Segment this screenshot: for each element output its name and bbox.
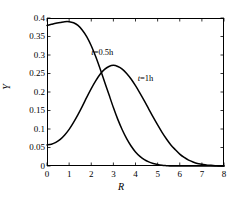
y-tick-label-text: 0.4 (34, 14, 45, 23)
y-tick-label: 0.25 (0, 69, 45, 78)
y-axis-label: Y (2, 84, 12, 90)
x-tick-label: 5 (148, 170, 168, 179)
y-tick-label-text: 0.05 (29, 143, 45, 152)
annotation-value: =0.5h (94, 47, 114, 57)
x-tick-label: 8 (214, 170, 234, 179)
axis-ticks (47, 18, 224, 166)
x-tick-label: 1 (59, 170, 79, 179)
curve-annotation-1: t=0.5h (91, 48, 113, 57)
y-tick-label: 0.15 (0, 106, 45, 115)
y-tick-label: 0.4 (0, 14, 45, 23)
y-tick-label-text: 0.1 (34, 125, 45, 134)
curve-annotation-2: t=1h (138, 74, 154, 83)
x-axis-label: R (0, 182, 242, 192)
x-tick-label: 4 (126, 170, 146, 179)
y-tick-label: 0.05 (0, 143, 45, 152)
y-tick-label: 0.1 (0, 125, 45, 134)
x-tick-label: 2 (81, 170, 101, 179)
data-curves (47, 22, 224, 166)
x-tick-label: 6 (170, 170, 190, 179)
data-line-series-1 (47, 22, 224, 166)
y-tick-label: 0.3 (0, 51, 45, 60)
x-tick-label: 3 (103, 170, 123, 179)
x-tick-label: 0 (37, 170, 57, 179)
y-tick-label-text: 0.2 (34, 88, 45, 97)
y-tick-label-text: 0.25 (29, 69, 45, 78)
y-tick-label-text: 0.3 (34, 51, 45, 60)
y-tick-label-text: 0.15 (29, 106, 45, 115)
y-tick-label-text: 0.35 (29, 32, 45, 41)
x-tick-label: 7 (192, 170, 212, 179)
annotation-value: =1h (140, 73, 153, 83)
chart-figure: 00.050.10.150.20.250.30.350.4 012345678 … (0, 0, 242, 199)
y-tick-label: 0.35 (0, 32, 45, 41)
